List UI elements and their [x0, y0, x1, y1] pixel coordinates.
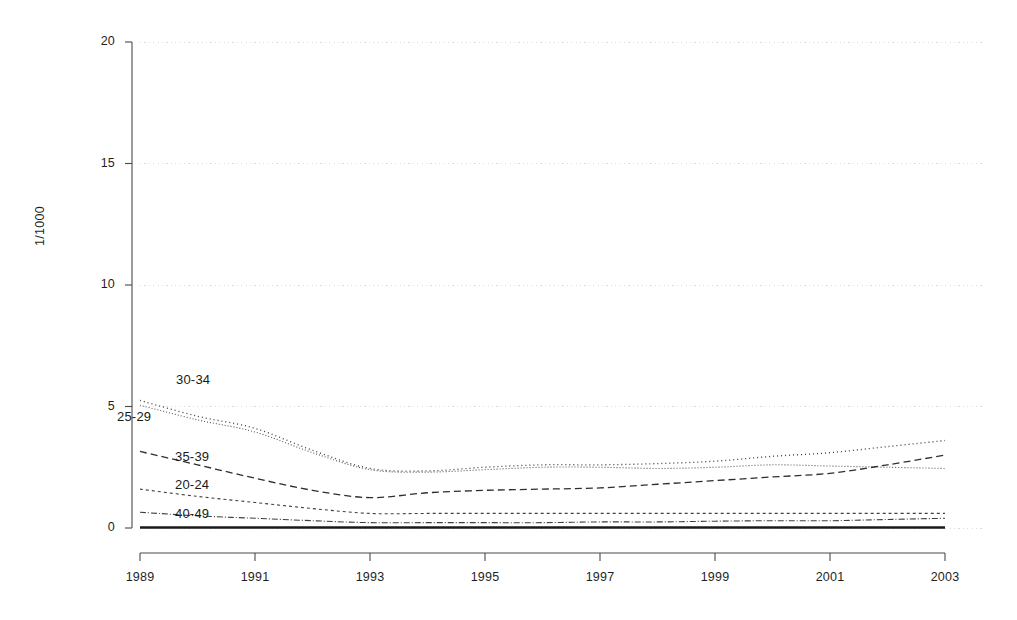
x-tick-label-2003: 2003: [915, 570, 975, 584]
x-tick-marks: [140, 553, 945, 561]
gridlines: [140, 42, 985, 528]
series-label-30-34: 30-34: [176, 372, 210, 387]
x-tick-label-2001: 2001: [800, 570, 860, 584]
chart-figure: 1/1000 05101520 198919911993199519971999…: [0, 0, 1017, 620]
y-axis-title: 1/1000: [33, 206, 47, 246]
x-tick-label-1999: 1999: [685, 570, 745, 584]
series-label-25-29: 25-29: [117, 409, 151, 424]
x-tick-label-1993: 1993: [340, 570, 400, 584]
x-tick-label-1989: 1989: [110, 570, 170, 584]
y-tick-marks: [125, 42, 132, 528]
y-tick-label-20: 20: [75, 34, 115, 48]
series-label-40-49: 40-49: [175, 506, 209, 521]
x-tick-label-1997: 1997: [570, 570, 630, 584]
series-line-25-29: [140, 405, 945, 472]
x-tick-label-1991: 1991: [225, 570, 285, 584]
axes: [125, 42, 945, 561]
y-tick-label-5: 5: [75, 399, 115, 413]
series-line-20-24: [140, 489, 945, 514]
series-line-30-34: [140, 400, 945, 471]
series-line-35-39: [140, 451, 945, 497]
series-lines: [140, 400, 945, 527]
y-tick-label-0: 0: [75, 520, 115, 534]
series-label-20-24: 20-24: [175, 477, 209, 492]
series-label-35-39: 35-39: [175, 449, 209, 464]
x-tick-label-1995: 1995: [455, 570, 515, 584]
y-tick-label-15: 15: [75, 156, 115, 170]
line-chart-canvas: [0, 0, 1017, 620]
y-tick-label-10: 10: [75, 277, 115, 291]
